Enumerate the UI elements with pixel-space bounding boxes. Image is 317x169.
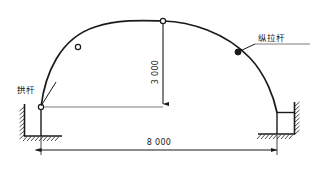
arch-structure-diagram: 3 000 8 000 拱杆 纵拉杆 [0, 0, 317, 169]
right-support [257, 102, 300, 139]
right-support-wall-hatching [295, 102, 300, 134]
arch-bar-label: 拱杆 [17, 85, 35, 95]
span-dimension: 8 000 [41, 135, 277, 155]
right-support-ground-hatching [257, 135, 293, 140]
height-dimension-label: 3 000 [151, 60, 160, 84]
tie-bar-label: 纵拉杆 [258, 33, 285, 43]
height-dimension: 3 000 [151, 22, 163, 104]
arch-bar-annotation: 拱杆 [17, 82, 56, 106]
diagram-canvas: 3 000 8 000 拱杆 纵拉杆 [0, 0, 317, 169]
left-arch-node [75, 44, 80, 49]
tie-bar-annotation: 纵拉杆 [238, 33, 310, 52]
tie-bar-leader-line [238, 44, 255, 52]
crown-node [160, 18, 165, 23]
left-support-wall-hatching [20, 107, 25, 139]
span-dimension-label: 8 000 [147, 138, 171, 147]
